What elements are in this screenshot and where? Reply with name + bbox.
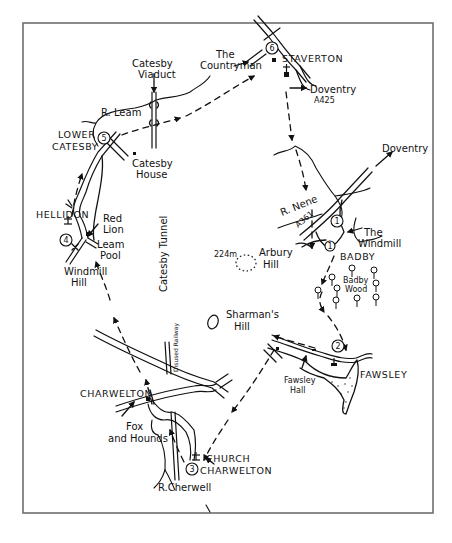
label-arbury-hill: Hill [263,259,279,270]
label-r-leam: R. Leam [101,107,141,118]
svg-text:1: 1 [334,217,339,226]
label-windmill-hill: Windmill [64,266,107,277]
label-badby: BADBY [340,251,375,262]
label-red-lion: Red [103,213,122,224]
label-fawsley-hall: Fawsley [284,376,316,385]
waypoint-1: 1 [331,215,343,227]
label-fawsley: FAWSLEY [360,369,407,380]
label-the-windmill: Windmill [358,238,401,249]
waypoint-6: 6 [266,42,278,54]
waypoint-2: 2 [332,340,344,352]
waypoint-4: 4 [60,234,72,246]
label-catesby-house: House [136,169,167,180]
label-fox-and-hounds: and Hounds [108,433,168,444]
svg-text:4: 4 [63,236,68,245]
label-staverton: STAVERTON [282,53,343,64]
label-arbury-height: 224m [214,250,237,259]
label-the-countryman: Countryman [200,60,262,71]
label-doventry-a425: A425 [314,96,335,105]
label-the-countryman: The [215,49,235,60]
label-leam-pool: Leam [97,239,124,250]
label-catesby-tunnel: Catesby Tunnel [158,216,169,292]
label-doventry-east: Doventry [382,143,428,154]
label-catesby-viaduct: Viaduct [138,69,176,80]
svg-text:1: 1 [327,242,332,251]
label-church-charwelton: CHARWELTON [200,465,272,476]
svg-text:2: 2 [335,342,340,351]
label-leam-pool: Pool [100,250,121,261]
label-disused-railway: Disused Railway [172,323,180,372]
label-windmill-hill: Hill [71,277,87,288]
svg-text:5: 5 [101,134,106,143]
label-catesby-viaduct: Catesby [132,58,173,69]
label-catesby-house: Catesby [132,158,173,169]
label-badby-wood: Wood [345,285,367,294]
label-the-windmill: The [363,227,383,238]
svg-text:3: 3 [189,465,194,474]
label-r-cherwell: R.Cherwell [158,482,211,493]
svg-text:6: 6 [269,44,274,53]
waypoint-badby-alt: 1 [325,241,335,251]
waypoint-5: 5 [98,132,110,144]
label-shermans-hill: Sharman's [226,309,279,320]
label-fox-and-hounds: Fox [126,421,143,432]
waypoint-3: 3 [186,463,198,475]
label-shermans-hill: Hill [234,321,250,332]
label-arbury-hill: Arbury [259,247,293,258]
label-badby-wood: Badby [343,276,369,285]
walking-route-map: 1 2 3 4 5 6 1 Catesby Viaduct The Countr… [0,0,452,543]
label-red-lion: Lion [103,224,124,235]
label-fawsley-hall: Hall [290,386,305,395]
label-charwelton: CHARWELTON [80,388,152,399]
label-hellidon: HELLIDON [36,209,89,220]
label-church-charwelton: CHURCH [206,453,250,464]
label-lower-catesby: LOWER [58,129,95,140]
label-doventry-a425: Doventry [310,84,356,95]
label-lower-catesby: CATESBY [52,141,98,152]
